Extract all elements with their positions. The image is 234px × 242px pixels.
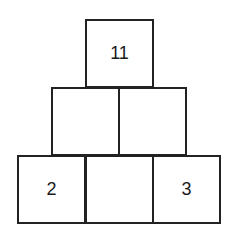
pyramid-cell-bottom-middle bbox=[85, 155, 154, 224]
pyramid-cell-middle-right bbox=[118, 87, 187, 156]
number-pyramid: 11 2 3 bbox=[0, 0, 234, 242]
pyramid-cell-bottom-right: 3 bbox=[152, 155, 221, 224]
pyramid-cell-middle-left bbox=[51, 87, 120, 156]
pyramid-cell-bottom-left: 2 bbox=[17, 155, 86, 224]
pyramid-cell-top: 11 bbox=[85, 19, 154, 88]
